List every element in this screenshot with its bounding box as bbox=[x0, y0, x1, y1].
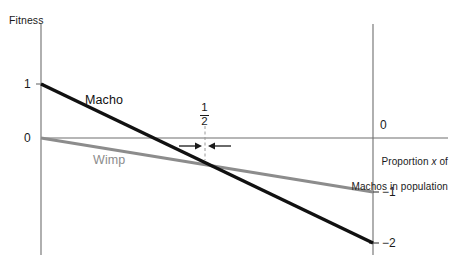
series-label-wimp: Wimp bbox=[93, 153, 125, 168]
y-tick-label-left-0: 0 bbox=[24, 131, 31, 145]
x-axis-title-line1: Proportion x of bbox=[381, 156, 448, 167]
fitness-payoff-chart: Fitness 1 0 0 −1 −2 1 2 Macho Wimp Propo… bbox=[0, 0, 454, 269]
y-tick-label-left-1: 1 bbox=[24, 77, 31, 91]
x-axis-title: Proportion x of Machos in population bbox=[318, 143, 448, 193]
half-fraction-annotation: 1 2 bbox=[200, 102, 209, 127]
x-axis-title-line2: Machos in population bbox=[351, 181, 448, 192]
series-label-macho: Macho bbox=[85, 93, 123, 108]
fraction-numerator: 1 bbox=[200, 102, 208, 114]
x-axis-title-line1-post: of bbox=[437, 156, 448, 167]
y-tick-label-right-0: 0 bbox=[380, 118, 387, 132]
x-axis-title-line1-pre: Proportion bbox=[381, 156, 431, 167]
arrow-left-icon bbox=[208, 143, 231, 150]
arrow-right-icon bbox=[179, 143, 202, 150]
chart-canvas bbox=[0, 0, 454, 269]
y-axis-title: Fitness bbox=[9, 14, 44, 26]
y-tick-label-right-neg2: −2 bbox=[382, 236, 396, 250]
fraction-denominator: 2 bbox=[200, 116, 208, 128]
